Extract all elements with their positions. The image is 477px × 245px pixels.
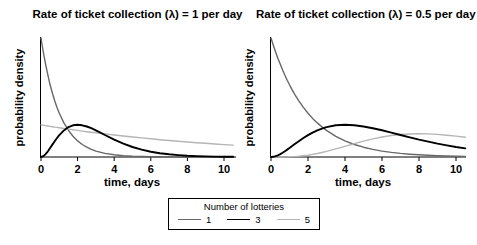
x-tick-label-0-4: 4: [111, 163, 118, 175]
legend-line-sample-5: [277, 219, 300, 220]
x-tick-label-1-0: 0: [268, 163, 274, 175]
legend-title: Number of lotteries: [169, 201, 319, 212]
x-tick-label-0-6: 6: [148, 163, 154, 175]
x-tick-label-1-6: 6: [379, 163, 385, 175]
legend: Number of lotteries 135: [168, 198, 320, 230]
legend-item-3: 3: [227, 214, 260, 225]
curve-1-lotteries-panel-0: [41, 38, 233, 157]
legend-label-5: 5: [305, 214, 310, 225]
x-tick-label-0-0: 0: [38, 163, 44, 175]
legend-line-sample-1: [178, 219, 201, 220]
x-tick-label-1-4: 4: [342, 163, 349, 175]
x-axis-label-right: time, days: [283, 176, 443, 188]
curve-1-lotteries-panel-1: [271, 38, 465, 156]
curve-5-lotteries-panel-1: [271, 134, 465, 157]
x-tick-label-1-2: 2: [305, 163, 311, 175]
x-tick-label-1-8: 8: [416, 163, 422, 175]
legend-items: 135: [169, 212, 319, 225]
x-axis-label-left: time, days: [52, 176, 212, 188]
curve-5-lotteries-panel-0: [41, 125, 233, 145]
figure: Rate of ticket collection (λ) = 1 per da…: [0, 0, 477, 245]
x-tick-label-0-10: 10: [218, 163, 230, 175]
legend-label-1: 1: [206, 214, 211, 225]
legend-item-5: 5: [277, 214, 310, 225]
legend-line-sample-3: [227, 219, 250, 220]
legend-item-1: 1: [178, 214, 211, 225]
curve-3-lotteries-panel-1: [271, 125, 465, 157]
x-tick-label-1-10: 10: [450, 163, 462, 175]
x-tick-label-0-2: 2: [75, 163, 81, 175]
x-tick-label-0-8: 8: [184, 163, 190, 175]
legend-label-3: 3: [255, 214, 260, 225]
